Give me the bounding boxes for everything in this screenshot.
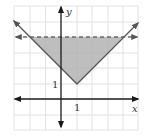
y-axis-label: y [65, 6, 72, 17]
x-tick-label-1: 1 [74, 102, 80, 113]
coordinate-graph: y x 1 1 [0, 0, 148, 138]
shaded-region [30, 37, 123, 84]
x-axis-label: x [132, 103, 138, 114]
y-tick-label-1: 1 [52, 79, 58, 90]
